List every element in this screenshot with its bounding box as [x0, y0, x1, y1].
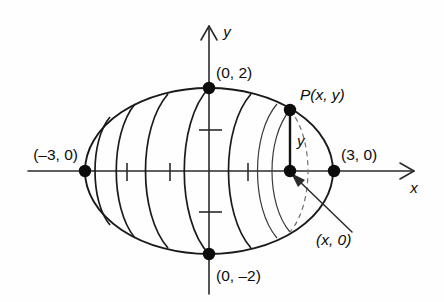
label-foot-point: (x, 0) [316, 231, 351, 248]
dot-left-vertex [79, 165, 91, 177]
label-top-vertex: (0, 2) [216, 64, 252, 81]
ellipsoid-diagram: (0, 2) (0, –2) (–3, 0) (3, 0) P(x, y) (x… [0, 0, 444, 302]
dot-right-vertex [328, 165, 340, 177]
dot-foot-point [284, 165, 296, 177]
label-ordinate: y [296, 132, 306, 149]
x-axis-label: x [409, 179, 418, 196]
figure-canvas: (0, 2) (0, –2) (–3, 0) (3, 0) P(x, y) (x… [0, 0, 444, 302]
dot-point-p [284, 104, 296, 116]
dot-top-vertex [203, 82, 215, 94]
label-point-p: P(x, y) [300, 86, 345, 103]
y-axis-label: y [222, 23, 232, 40]
foot-point-leader [291, 173, 352, 232]
dot-bottom-vertex [203, 248, 215, 260]
label-right-vertex: (3, 0) [341, 146, 377, 163]
label-bottom-vertex: (0, –2) [216, 267, 261, 284]
label-left-vertex: (–3, 0) [33, 146, 78, 163]
